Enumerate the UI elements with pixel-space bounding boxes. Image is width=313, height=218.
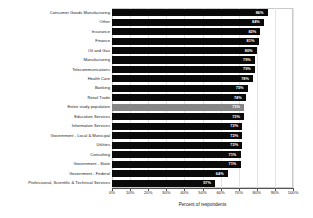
bar-row: Oil and Gas80%	[0, 46, 313, 55]
bar-track: 79%	[112, 65, 293, 74]
bar-value-label: 75%	[236, 86, 244, 90]
bar-value-label: 72%	[230, 124, 238, 128]
bar-track: 72%	[112, 122, 293, 131]
bar-row: Government - State71%	[0, 160, 313, 169]
x-tick-label: 70%	[234, 191, 242, 195]
category-label: Government - Federal	[69, 172, 110, 176]
x-tick-label: 0%	[109, 191, 115, 195]
bar-track: 79%	[112, 55, 293, 64]
bar-track: 71%	[112, 150, 293, 159]
category-label: Consumer Goods Manufacturing	[50, 11, 110, 15]
bar-value-label: 72%	[230, 143, 238, 147]
bar: 57%	[112, 180, 215, 187]
bar: 80%	[112, 47, 257, 54]
bar-row: Telecommunications79%	[0, 65, 313, 74]
x-tick-label: 100%	[288, 191, 299, 195]
x-tick-label: 20%	[144, 191, 152, 195]
bar-value-label: 86%	[256, 11, 264, 15]
bar-track: 82%	[112, 27, 293, 36]
bar: 86%	[112, 9, 268, 16]
category-label: Government - Local & Municipal	[51, 134, 110, 138]
bar-track: 84%	[112, 17, 293, 26]
bar: 79%	[112, 66, 255, 73]
bar-row: Consulting71%	[0, 150, 313, 159]
bar-row: Government - Local & Municipal72%	[0, 131, 313, 140]
bar: 78%	[112, 75, 253, 82]
bar: 72%	[112, 132, 242, 139]
bar: 73%	[112, 113, 244, 120]
category-label: Manufacturing	[84, 58, 110, 62]
bar-track: 86%	[112, 8, 293, 17]
category-label: Consulting	[90, 153, 110, 157]
bar: 84%	[112, 19, 264, 26]
x-tick-label: 40%	[180, 191, 188, 195]
bar-row: Insurance82%	[0, 27, 313, 36]
category-label: Professional, Scientific & Technical Ser…	[28, 181, 110, 185]
bar-track: 71%	[112, 160, 293, 169]
bar-value-label: 84%	[252, 20, 260, 24]
bar-row: Retail Trade74%	[0, 93, 313, 102]
bar-row: Education Services73%	[0, 112, 313, 121]
bar: 79%	[112, 56, 255, 63]
x-tick-label: 10%	[126, 191, 134, 195]
bar-row: Entire study population73%	[0, 103, 313, 112]
bar: 74%	[112, 94, 246, 101]
bar-row: Other84%	[0, 17, 313, 26]
category-label: Finance	[95, 39, 110, 43]
bar-row: Information Services72%	[0, 122, 313, 131]
x-tick-label: 30%	[162, 191, 170, 195]
x-tick-label: 80%	[253, 191, 261, 195]
bar-track: 74%	[112, 93, 293, 102]
bar-value-label: 80%	[245, 49, 253, 53]
category-label: Retail Trade	[87, 96, 110, 100]
x-tick-label: 90%	[271, 191, 279, 195]
bar-track: 73%	[112, 103, 293, 112]
bar-track: 72%	[112, 141, 293, 150]
bar-row: Health Care78%	[0, 74, 313, 83]
bar-chart: Consumer Goods Manufacturing86%Other84%I…	[0, 0, 313, 218]
bar-track: 57%	[112, 178, 293, 187]
bar-rows: Consumer Goods Manufacturing86%Other84%I…	[0, 8, 313, 188]
x-tick-label: 60%	[216, 191, 224, 195]
category-label: Telecommunications	[72, 68, 110, 72]
bar-value-label: 73%	[232, 115, 240, 119]
bar-value-label: 74%	[234, 96, 242, 100]
bar-value-label: 64%	[216, 172, 224, 176]
bar: 72%	[112, 123, 242, 130]
x-tick-label: 50%	[198, 191, 206, 195]
bar-value-label: 79%	[243, 58, 251, 62]
bar-row: Finance81%	[0, 36, 313, 45]
bar-value-label: 73%	[232, 105, 240, 109]
bar-value-label: 79%	[243, 68, 251, 72]
category-label: Utilities	[96, 143, 110, 147]
bar: 81%	[112, 38, 259, 45]
bar: 82%	[112, 28, 260, 35]
bar-row: Consumer Goods Manufacturing86%	[0, 8, 313, 17]
category-label: Health Care	[88, 77, 110, 81]
bar-value-label: 71%	[229, 153, 237, 157]
bar-value-label: 82%	[248, 30, 256, 34]
category-label: Government - State	[74, 162, 110, 166]
category-label: Banking	[95, 86, 110, 90]
bar-row: Government - Federal64%	[0, 169, 313, 178]
bar-track: 81%	[112, 36, 293, 45]
bar-track: 75%	[112, 84, 293, 93]
category-label: Other	[100, 20, 110, 24]
bar-value-label: 57%	[203, 181, 211, 185]
bar: 72%	[112, 142, 242, 149]
bar-value-label: 81%	[247, 39, 255, 43]
bar-track: 64%	[112, 169, 293, 178]
bar-track: 78%	[112, 74, 293, 83]
bar-value-label: 78%	[241, 77, 249, 81]
bar-track: 72%	[112, 131, 293, 140]
bar: 71%	[112, 161, 241, 168]
bar-value-label: 72%	[230, 134, 238, 138]
bar-track: 73%	[112, 112, 293, 121]
bar-value-label: 71%	[229, 162, 237, 166]
bar-row: Professional, Scientific & Technical Ser…	[0, 178, 313, 187]
bar-track: 80%	[112, 46, 293, 55]
category-label: Education Services	[74, 115, 110, 119]
category-label: Insurance	[92, 30, 110, 34]
x-axis-title: Percent of respondents	[112, 203, 293, 208]
bar: 73%	[112, 104, 244, 111]
